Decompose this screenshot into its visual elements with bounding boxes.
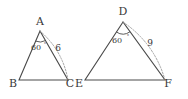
triangle-abc-left-vertex-label: B (9, 77, 17, 90)
triangle-abc-apex-label: A (35, 15, 45, 28)
triangle-abc-right-vertex-label: C (66, 77, 74, 90)
triangle-def-right-vertex-label: F (164, 77, 172, 90)
geometry-canvas: ABC60°6DEF60°9 (0, 0, 188, 99)
triangle-def-side-length-label: 9 (147, 38, 153, 48)
triangle-def-left-vertex-label: E (75, 77, 83, 90)
triangle-abc-angle-value: 60 (31, 43, 41, 52)
triangle-def: DEF60°9 (75, 5, 172, 90)
triangle-def-angle-value: 60 (112, 36, 122, 45)
triangle-def-apex-label: D (119, 5, 128, 18)
triangle-abc-side-length-label: 6 (55, 43, 61, 53)
triangle-abc: ABC60°6 (9, 15, 74, 90)
geometry-figure: ABC60°6DEF60°9 (0, 0, 188, 99)
triangle-abc-outline (19, 31, 68, 80)
triangle-def-outline (85, 22, 165, 80)
triangle-def-angle-degree-symbol: ° (127, 33, 130, 39)
